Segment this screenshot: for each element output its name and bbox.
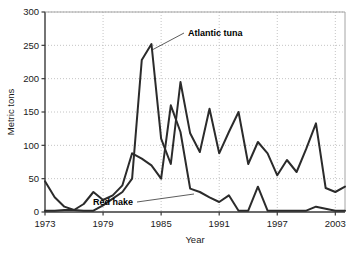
- x-tick-label-1973: 1973: [34, 218, 55, 229]
- x-tick-label-1991: 1991: [209, 218, 230, 229]
- chart-container: 050100150200250300 197319791985199119972…: [0, 0, 356, 254]
- y-tick-label-50: 50: [28, 173, 39, 184]
- x-tick-label-1997: 1997: [267, 218, 288, 229]
- x-axis-title: Year: [185, 234, 204, 245]
- x-tick-label-1985: 1985: [151, 218, 172, 229]
- y-tick-label-150: 150: [23, 106, 39, 117]
- y-axis-title: Metric tons: [5, 89, 16, 136]
- atlantic-tuna-label: Atlantic tuna: [188, 28, 243, 38]
- y-tick-label-300: 300: [23, 6, 39, 17]
- x-tick-label-2003: 2003: [325, 218, 346, 229]
- y-tick-label-200: 200: [23, 73, 39, 84]
- fisheries-landings-line-chart: 050100150200250300 197319791985199119972…: [0, 0, 356, 254]
- x-tick-label-1979: 1979: [92, 218, 113, 229]
- y-tick-label-100: 100: [23, 140, 39, 151]
- y-tick-label-0: 0: [34, 206, 39, 217]
- y-tick-label-250: 250: [23, 40, 39, 51]
- red-hake-label: Red hake: [93, 197, 133, 207]
